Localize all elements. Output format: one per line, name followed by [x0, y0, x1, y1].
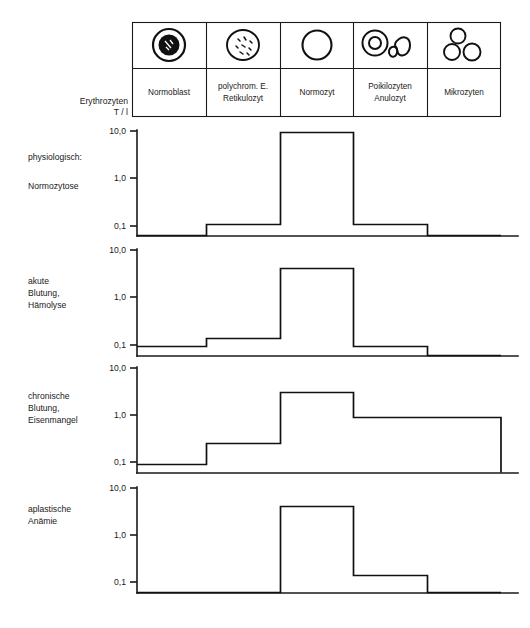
- row-label-2-line3: Eisenmangel: [28, 415, 78, 425]
- y-ticklabel-0-01: 0,1: [114, 221, 126, 231]
- y-axis-title-line2: T / l: [114, 107, 128, 117]
- erythrocyte-morphology-figure: Normoblast polychrom. E. Retikulozyt Nor…: [0, 0, 530, 628]
- header-col-3-label-line1: Poikilozyten: [368, 82, 412, 91]
- row-label-1-line2: Blutung,: [28, 288, 60, 298]
- profile-step-2: [137, 393, 501, 473]
- row-label-1-line3: Hämolyse: [28, 300, 66, 310]
- y-ticklabel-3-01: 0,1: [114, 577, 126, 587]
- y-ticklabel-1-01: 0,1: [114, 340, 126, 350]
- row-label-1-line1: akute: [28, 276, 49, 286]
- normoblast-cell-icon: [153, 29, 185, 61]
- profile-step-1: [137, 269, 501, 356]
- chart-panel-physiologisch: physiologisch: Normozytose 10,0 1,0 0,1: [28, 126, 518, 236]
- y-axis-title-line1: Erythrozyten: [80, 96, 128, 106]
- profile-step-3: [137, 507, 501, 593]
- normocyte-cell-icon: [303, 31, 332, 60]
- polychromatic-reticulocyte-cell-icon: [227, 30, 259, 60]
- row-label-0-line1: physiologisch:: [28, 152, 82, 162]
- profile-step-0: [137, 133, 501, 236]
- poikilocyte-anulocyte-cell-icon: [363, 31, 411, 57]
- y-ticklabel-1-10: 10,0: [109, 245, 126, 255]
- header-col-2-label-line1: Normozyt: [299, 88, 335, 97]
- chart-panel-aplastische-anaemie: aplastische Anämie 10,0 1,0 0,1: [28, 483, 518, 593]
- y-ticklabel-0-1: 1,0: [114, 173, 126, 183]
- header-col-1-label-line1: polychrom. E.: [218, 82, 268, 91]
- row-label-3-line1: aplastische: [28, 504, 71, 514]
- y-ticklabel-3-1: 1,0: [114, 530, 126, 540]
- header-col-3-label-line2: Anulozyt: [374, 94, 406, 103]
- header-table: Normoblast polychrom. E. Retikulozyt Nor…: [133, 23, 501, 117]
- row-label-2-line1: chronische: [28, 391, 70, 401]
- microcyte-cell-icon: [444, 29, 481, 61]
- chart-panel-chronische-blutung: chronische Blutung, Eisenmangel 10,0 1,0…: [28, 363, 518, 473]
- header-col-1-label-line2: Retikulozyt: [223, 94, 264, 103]
- y-ticklabel-3-10: 10,0: [109, 483, 126, 493]
- row-label-3-line2: Anämie: [28, 516, 57, 526]
- row-label-0-line2: Normozytose: [28, 181, 79, 191]
- header-col-0-label-line1: Normoblast: [148, 88, 191, 97]
- y-ticklabel-2-10: 10,0: [109, 363, 126, 373]
- chart-panel-akute-blutung: akute Blutung, Hämolyse 10,0 1,0 0,1: [28, 245, 518, 356]
- row-label-2-line2: Blutung,: [28, 403, 60, 413]
- y-ticklabel-0-10: 10,0: [109, 126, 126, 136]
- header-col-4-label-line1: Mikrozyten: [444, 88, 484, 97]
- y-ticklabel-1-1: 1,0: [114, 292, 126, 302]
- y-axis-title: Erythrozyten T / l: [80, 96, 128, 117]
- y-ticklabel-2-01: 0,1: [114, 457, 126, 467]
- y-ticklabel-2-1: 1,0: [114, 410, 126, 420]
